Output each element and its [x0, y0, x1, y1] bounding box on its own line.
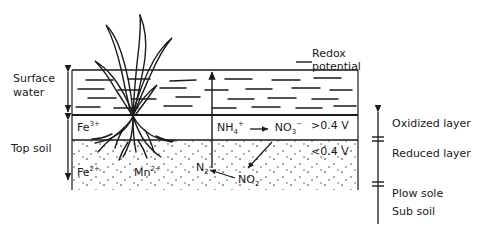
sub-soil-label: Sub soil — [392, 206, 435, 219]
redox-potential-label-line2: potential — [312, 61, 361, 74]
fe2-label: Fe2+ — [77, 165, 100, 179]
mn2-label: Mn2+ — [134, 165, 161, 179]
figure-canvas: Surface water Top soil Fe3+ Fe2+ Mn2+ NH… — [0, 0, 479, 232]
nitrification-reaction: NH4+ NO3− — [217, 120, 302, 136]
oxidized-voltage-label: >0.4 V — [311, 120, 349, 133]
reduced-layer-label: Reduced layer — [392, 148, 471, 161]
surface-water-label-line1: Surface — [13, 73, 55, 86]
no2-label: NO2 — [238, 174, 259, 188]
top-soil-label: Top soil — [11, 143, 52, 156]
redox-potential-label-line1: Redox — [312, 48, 346, 61]
plow-sole-label: Plow sole — [392, 188, 443, 201]
fe3-label: Fe3+ — [77, 120, 100, 134]
surface-water-label-line2: water — [13, 87, 44, 100]
right-scale — [372, 112, 384, 224]
n2-label: N2 — [196, 162, 209, 176]
reduced-voltage-label: <0.4 V — [311, 146, 349, 159]
oxidized-layer-label: Oxidized layer — [392, 118, 471, 131]
